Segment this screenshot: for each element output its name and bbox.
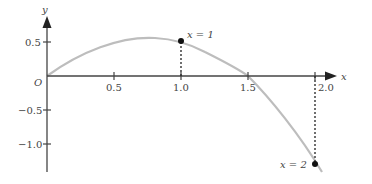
x-tick-label: 0.5 <box>106 82 122 93</box>
x-tick-label: 2.0 <box>318 82 334 93</box>
annotation-x2: x = 2 <box>280 159 307 170</box>
y-axis-arrow-icon <box>43 16 52 28</box>
y-tick-label: −1.0 <box>18 139 42 150</box>
x-tick-label: 1.5 <box>240 82 256 93</box>
point-x1 <box>178 38 184 44</box>
y-tick-label: 0.5 <box>25 37 41 48</box>
curve-line <box>47 38 322 172</box>
origin-label: O <box>34 77 42 88</box>
y-tick-label: −0.5 <box>18 105 42 116</box>
chart: y x O 0.5 1.0 1.5 2.0 0.5 −0.5 −1.0 x = … <box>0 0 372 184</box>
annotation-x1: x = 1 <box>187 29 214 40</box>
point-x2 <box>312 161 318 167</box>
x-axis-label: x <box>341 71 347 82</box>
x-axis-arrow-icon <box>325 72 337 81</box>
y-axis-label: y <box>41 4 48 15</box>
x-tick-label: 1.0 <box>173 82 189 93</box>
